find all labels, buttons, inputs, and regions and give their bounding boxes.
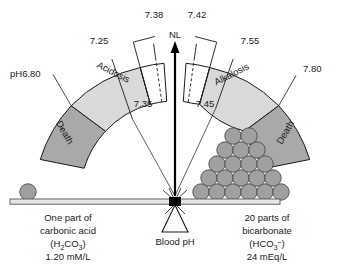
left-pan-line1: One part of	[44, 212, 92, 223]
weight-circle	[225, 128, 241, 144]
blood-ph-scale-diagram: pH6.80 7.25 7.38 7.35 7.45 7.42 7.55 7.8…	[0, 0, 345, 270]
formula-close: )	[82, 238, 85, 249]
formula-open: (H	[50, 238, 60, 249]
formula-close: )	[281, 238, 284, 249]
formula-open: (HCO	[249, 238, 273, 249]
right-pan-formula: (HCO3–)	[249, 238, 284, 251]
formula-co: CO	[64, 238, 78, 249]
label-745: 7.45	[196, 98, 215, 109]
left-pan-value: 1.20 mM/L	[46, 251, 91, 262]
label-755: 7.55	[241, 35, 260, 46]
left-pan-caption: One part of carbonic acid (H2CO3) 1.20 m…	[40, 212, 96, 262]
balance-beam	[10, 199, 280, 204]
carbonic-acid-weight-circle	[20, 184, 36, 200]
label-735: 7.35	[134, 98, 153, 109]
right-pan-value: 24 mEq/L	[247, 251, 288, 262]
diagram-svg: pH6.80 7.25 7.38 7.35 7.45 7.42 7.55 7.8…	[0, 0, 345, 270]
fulcrum-label: Blood pH	[155, 236, 194, 247]
left-pan-line2: carbonic acid	[40, 225, 96, 236]
label-ph680: pH6.80	[10, 68, 41, 79]
left-pan-formula: (H2CO3)	[50, 238, 85, 251]
formula-sub-3: 3	[274, 244, 278, 251]
right-pan-line1: 20 parts of	[245, 212, 290, 223]
label-780: 7.80	[303, 63, 322, 74]
right-pan-caption: 20 parts of bicarbonate (HCO3–) 24 mEq/L	[242, 212, 292, 262]
label-738: 7.38	[145, 9, 164, 20]
weight-circle	[241, 128, 257, 144]
right-pan-line2: bicarbonate	[242, 225, 292, 236]
label-nl: NL	[169, 29, 181, 40]
label-725: 7.25	[90, 35, 109, 46]
normal-level-arrow	[171, 41, 180, 196]
label-742: 7.42	[188, 9, 207, 20]
